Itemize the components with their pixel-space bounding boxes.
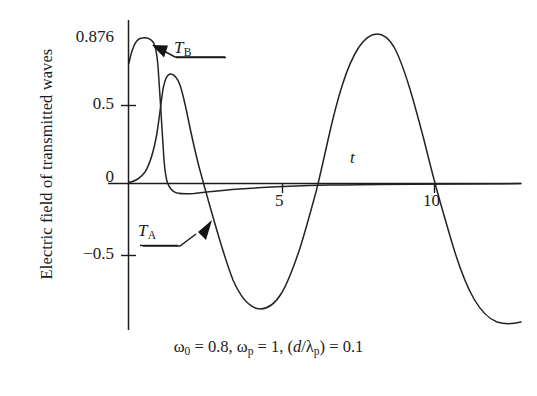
caption-omega0-symbol: ω <box>174 337 185 356</box>
curve-label-T-B-sub: B <box>184 46 192 58</box>
caption-lambda-symbol: λ <box>306 337 314 356</box>
curve-label-T-B: TB <box>174 38 192 58</box>
caption-d-symbol: d <box>293 337 301 356</box>
y-tick-label-minus-05: −0.5 <box>22 244 114 264</box>
x-axis-title: t <box>350 148 355 168</box>
curve-label-T-A: TA <box>138 221 156 241</box>
x-tick-label-5: 5 <box>275 191 284 211</box>
y-tick-label-0: 0 <box>22 167 114 187</box>
curve-label-T-A-main: T <box>138 221 147 240</box>
chart-figure: Electric field of transmitted waves 0.87… <box>0 0 537 396</box>
caption-tail: ) = 0.1 <box>320 337 364 356</box>
y-axis-title: Electric field of transmitted waves <box>37 0 57 329</box>
x-tick-label-10: 10 <box>423 191 440 211</box>
caption-omegap-value: = 1, ( <box>253 337 293 356</box>
figure-caption: ω0 = 0.8, ωp = 1, (d/λp) = 0.1 <box>0 337 537 357</box>
curve-label-T-B-main: T <box>174 38 183 57</box>
y-tick-label-0876: 0.876 <box>22 27 114 47</box>
arrowhead-T-A <box>198 220 212 240</box>
arrowhead-T-B <box>152 45 168 58</box>
y-tick-label-05: 0.5 <box>22 94 114 114</box>
curve-label-T-A-sub: A <box>148 229 156 241</box>
caption-omegap-symbol: ω <box>237 337 248 356</box>
curve-T-A <box>129 34 521 324</box>
caption-omega0-value: = 0.8, <box>190 337 236 356</box>
